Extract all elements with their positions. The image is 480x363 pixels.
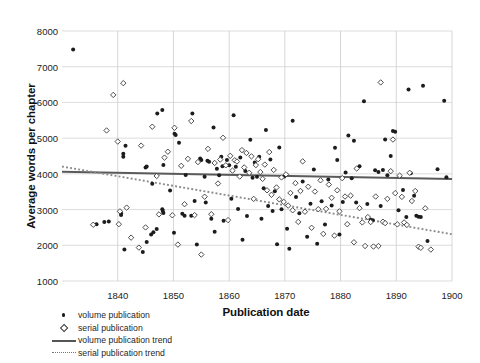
data-point xyxy=(203,175,207,179)
data-point xyxy=(399,194,404,199)
data-point xyxy=(251,176,255,180)
data-point xyxy=(193,199,197,203)
data-point xyxy=(174,133,178,137)
data-point xyxy=(260,176,265,181)
data-point xyxy=(199,252,204,257)
data-point xyxy=(371,244,376,249)
data-point xyxy=(285,227,289,231)
data-point xyxy=(264,128,268,132)
legend-item: serial publication xyxy=(52,322,252,335)
legend-item-label: serial publication trend xyxy=(78,348,165,358)
data-point xyxy=(177,141,181,145)
data-point xyxy=(352,139,356,143)
data-point xyxy=(141,250,145,254)
data-point xyxy=(277,145,281,149)
data-point xyxy=(225,158,229,162)
legend-marker-filled-circle-icon xyxy=(52,309,78,321)
data-point xyxy=(122,248,126,252)
data-point xyxy=(179,163,184,168)
data-point xyxy=(412,194,416,198)
data-point xyxy=(195,243,199,247)
data-point xyxy=(183,214,187,218)
data-point xyxy=(316,207,321,212)
data-point xyxy=(357,205,362,210)
data-point xyxy=(337,233,341,237)
data-point xyxy=(409,198,414,203)
data-point xyxy=(116,222,121,227)
data-point xyxy=(204,200,208,204)
data-point xyxy=(326,182,331,187)
x-axis-tick-label: 1860 xyxy=(204,290,254,301)
data-point xyxy=(335,188,340,193)
data-point xyxy=(269,192,274,197)
data-point xyxy=(379,204,383,208)
data-point xyxy=(168,188,172,192)
data-point xyxy=(378,80,383,85)
x-axis-tick-label: 1880 xyxy=(316,290,366,301)
data-point xyxy=(342,194,347,199)
data-point xyxy=(234,165,238,169)
data-point xyxy=(341,200,345,204)
data-point xyxy=(298,188,303,193)
data-point xyxy=(308,202,312,206)
data-point xyxy=(229,197,233,201)
data-point xyxy=(286,203,291,208)
data-point xyxy=(301,180,305,184)
data-point xyxy=(444,175,448,179)
legend-solid-line-icon xyxy=(52,334,78,346)
data-point xyxy=(217,173,221,177)
data-point xyxy=(244,150,249,155)
data-point xyxy=(323,206,328,211)
data-point xyxy=(182,202,187,207)
data-point xyxy=(155,227,159,231)
data-point xyxy=(362,243,367,248)
data-point xyxy=(350,176,354,180)
data-point xyxy=(312,189,317,194)
data-point xyxy=(165,149,170,154)
data-point xyxy=(421,84,425,88)
data-point xyxy=(138,143,143,148)
data-point xyxy=(345,222,350,227)
data-point xyxy=(381,168,385,172)
data-point xyxy=(294,195,298,199)
data-point xyxy=(318,178,323,183)
data-point xyxy=(104,128,109,133)
data-point xyxy=(320,199,324,203)
data-point xyxy=(245,214,249,218)
data-point xyxy=(271,167,276,172)
data-point xyxy=(315,242,319,246)
data-point xyxy=(230,168,235,173)
data-point xyxy=(249,154,254,159)
data-point xyxy=(212,125,216,129)
legend-item-label: volume publication xyxy=(78,310,150,320)
data-point xyxy=(220,135,225,140)
data-point xyxy=(407,88,411,92)
data-point xyxy=(175,242,180,247)
data-point xyxy=(395,222,400,227)
data-point xyxy=(121,152,125,156)
data-point xyxy=(436,167,440,171)
data-point xyxy=(107,220,111,224)
data-point xyxy=(202,194,207,199)
data-point xyxy=(296,219,301,224)
data-point xyxy=(306,184,311,189)
x-axis-tick-label: 1840 xyxy=(93,290,143,301)
data-point xyxy=(376,170,380,174)
data-point xyxy=(288,190,293,195)
data-point xyxy=(385,196,390,201)
data-point xyxy=(238,156,242,160)
data-point xyxy=(335,158,339,162)
data-point xyxy=(225,217,230,222)
data-point xyxy=(423,206,428,211)
data-point xyxy=(121,80,126,85)
x-axis-tick-label: 1850 xyxy=(148,290,198,301)
data-point xyxy=(401,188,405,192)
data-point xyxy=(222,219,226,223)
data-point xyxy=(136,245,141,250)
data-point xyxy=(413,188,418,193)
legend-item: volume publication trend xyxy=(52,334,252,347)
data-point xyxy=(213,230,217,234)
data-point xyxy=(312,167,316,171)
data-point xyxy=(71,48,75,52)
data-point xyxy=(392,190,397,195)
